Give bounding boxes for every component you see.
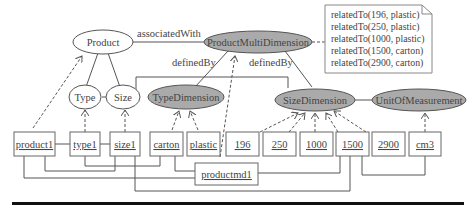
instance-label: type1 xyxy=(73,139,96,150)
instance-label: cm3 xyxy=(416,139,434,150)
class-unit-of-measurement[interactable]: UnitOfMeasurement xyxy=(372,89,466,111)
class-product-multi-dimension[interactable]: ProductMultiDimension xyxy=(204,31,312,53)
instance-2900[interactable]: 2900 xyxy=(372,132,405,156)
class-size-label: Size xyxy=(114,92,132,103)
class-type[interactable]: Type xyxy=(69,85,101,109)
class-pmd-label: ProductMultiDimension xyxy=(207,37,310,48)
instance-label: 250 xyxy=(272,139,288,150)
instance-250[interactable]: 250 xyxy=(263,132,296,156)
instance-label: carton xyxy=(153,139,180,150)
label-defined-by-2: definedBy xyxy=(249,57,293,68)
instance-label: product1 xyxy=(16,139,53,150)
instance-cm3[interactable]: cm3 xyxy=(409,132,441,156)
note-line: relatedTo(2900, carton) xyxy=(331,57,423,69)
instance-1000[interactable]: 1000 xyxy=(300,132,333,156)
edge-product-size xyxy=(108,53,120,87)
instance-plastic[interactable]: plastic xyxy=(187,132,220,156)
note-line: relatedTo(1000, plastic) xyxy=(331,33,424,45)
class-unit-label: UnitOfMeasurement xyxy=(376,95,463,106)
instance-label: productmd1 xyxy=(201,169,252,180)
label-associated-with: associatedWith xyxy=(137,28,201,39)
instance-size1[interactable]: size1 xyxy=(110,132,140,156)
note-line: relatedTo(196, plastic) xyxy=(331,9,420,21)
class-product-label: Product xyxy=(87,37,120,48)
class-type-dimension[interactable]: TypeDimension xyxy=(148,85,224,109)
class-type-dimension-label: TypeDimension xyxy=(153,92,221,103)
instance-1500[interactable]: 1500 xyxy=(336,132,369,156)
instance-productmd1[interactable]: productmd1 xyxy=(195,163,258,185)
class-type-label: Type xyxy=(75,92,96,103)
class-size-dimension[interactable]: SizeDimension xyxy=(275,89,355,111)
class-size-dimension-label: SizeDimension xyxy=(283,95,348,106)
label-defined-by-1: definedBy xyxy=(172,57,216,68)
instance-product1[interactable]: product1 xyxy=(14,132,55,156)
note-line: relatedTo(250, plastic) xyxy=(331,21,420,33)
instance-type1[interactable]: type1 xyxy=(70,132,100,156)
bottom-rule xyxy=(12,202,464,205)
instance-196[interactable]: 196 xyxy=(226,132,259,156)
relatedTo-note: relatedTo(196, plastic) relatedTo(250, p… xyxy=(325,5,432,73)
instance-label: 196 xyxy=(235,139,251,150)
edge-product-type xyxy=(86,53,98,87)
class-size[interactable]: Size xyxy=(106,85,140,109)
class-product[interactable]: Product xyxy=(73,30,133,54)
instance-label: 2900 xyxy=(378,139,399,150)
instance-label: 1000 xyxy=(306,139,327,150)
instance-carton[interactable]: carton xyxy=(150,132,183,156)
instance-label: plastic xyxy=(190,139,218,150)
ontology-diagram: Product Type Size ProductMultiDimension … xyxy=(0,0,475,208)
instance-label: 1500 xyxy=(342,139,363,150)
instance-label: size1 xyxy=(114,139,136,150)
note-line: relatedTo(1500, carton) xyxy=(331,45,423,57)
